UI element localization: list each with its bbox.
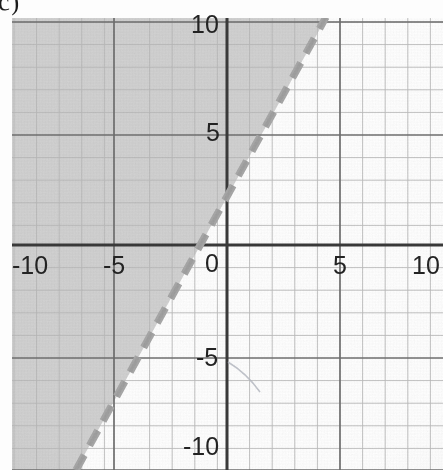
y-tick-label-minus10: -10 [183,434,219,459]
graph-svg [12,18,443,470]
y-tick-label-minus5: -5 [196,345,218,370]
coordinate-plane [12,18,443,470]
y-tick-label-plus5: 5 [206,120,220,145]
y-tick-label-plus10: 10 [191,12,219,37]
problem-label: c) [0,0,21,18]
worksheet-graph-page: c) [0,0,443,470]
x-tick-label-zero: 0 [205,251,219,276]
x-tick-label-plus10: 10 [412,253,440,278]
x-tick-label-minus5: -5 [103,253,125,278]
x-tick-label-plus5: 5 [333,253,347,278]
x-tick-label-minus10: -10 [12,253,48,278]
